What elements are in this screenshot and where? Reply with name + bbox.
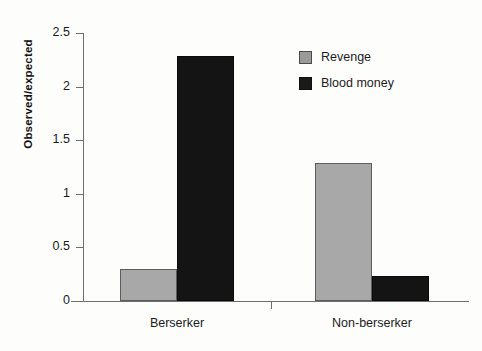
- y-tick-mark: [76, 247, 83, 248]
- x-axis-line: [71, 301, 469, 302]
- y-tick-mark: [76, 140, 83, 141]
- bar-blood-money-berserker: [177, 56, 234, 301]
- y-tick-mark: [76, 33, 83, 34]
- plot-area: [84, 33, 458, 301]
- y-tick-label: 2.5: [30, 26, 70, 39]
- y-tick-label: 0: [30, 294, 70, 307]
- y-tick-mark: [76, 194, 83, 195]
- legend-label-revenge: Revenge: [321, 50, 371, 64]
- bar-revenge-non-berserker: [315, 163, 372, 301]
- y-tick-label: 1: [30, 187, 70, 200]
- blood-money-swatch-icon: [299, 77, 312, 90]
- legend-item-blood-money: Blood money: [299, 73, 394, 93]
- legend-item-revenge: Revenge: [299, 47, 394, 67]
- legend-label-blood-money: Blood money: [321, 76, 394, 90]
- y-tick-label: 1.5: [30, 133, 70, 146]
- y-tick-mark: [76, 301, 83, 302]
- revenge-swatch-icon: [299, 51, 312, 64]
- chart-legend: Revenge Blood money: [299, 47, 394, 99]
- bar-blood-money-non-berserker: [372, 276, 429, 301]
- category-label-berserker: Berserker: [150, 316, 204, 330]
- y-tick-label: 2: [30, 80, 70, 93]
- x-axis-group-divider-tick: [271, 302, 272, 309]
- y-tick-label: 0.5: [30, 240, 70, 253]
- bar-revenge-berserker: [120, 269, 177, 301]
- bar-chart-figure: Observed/expected 00.511.522.5 Berserker…: [0, 0, 482, 351]
- category-label-non-berserker: Non-berserker: [332, 316, 412, 330]
- y-tick-mark: [76, 87, 83, 88]
